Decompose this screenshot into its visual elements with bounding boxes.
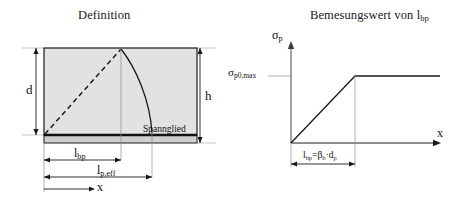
label-sigma-max-subscript: p0,max bbox=[234, 71, 256, 80]
arrow-h-bottom bbox=[197, 137, 202, 143]
label-x-axis-left: x bbox=[97, 180, 103, 195]
label-x-axis-right: x bbox=[437, 126, 443, 141]
arrow-formula-right bbox=[349, 161, 355, 166]
label-tendon-spannglied: Spannglied bbox=[143, 124, 186, 134]
formula-eq-beta: =β bbox=[312, 150, 322, 160]
figure-drawing bbox=[0, 0, 458, 203]
arrow-x-left bbox=[89, 186, 95, 191]
label-depth-d: d bbox=[26, 82, 33, 98]
label-transmission-length-formula: lbp=βb·dp bbox=[303, 150, 337, 161]
label-lpeff-subscript: p,eff bbox=[100, 169, 115, 178]
arrow-lpeff-left bbox=[44, 174, 50, 179]
label-lbp-subscript: bp bbox=[77, 152, 85, 161]
arrow-lpeff-right bbox=[146, 174, 152, 179]
formula-sub-p: p bbox=[333, 154, 336, 161]
stress-distribution-line bbox=[291, 76, 440, 143]
figure-root: Definition Bemesungswert von lbp bbox=[0, 0, 458, 203]
arrow-y-axis-right bbox=[288, 41, 294, 49]
arrow-formula-left bbox=[291, 161, 297, 166]
label-height-h: h bbox=[205, 88, 212, 104]
label-y-axis-sigma-p: σp bbox=[272, 28, 283, 43]
arrow-lbp-left bbox=[44, 157, 50, 162]
arrow-lbp-right bbox=[115, 157, 121, 162]
label-sigma-p0-max: σp0,max bbox=[228, 66, 256, 80]
arrow-d-bottom bbox=[33, 129, 38, 135]
arrow-h-top bbox=[197, 48, 202, 54]
label-effective-length-lpeff: lp,eff bbox=[97, 163, 115, 178]
concrete-body bbox=[44, 48, 197, 135]
label-sigma-p-subscript: p bbox=[278, 34, 282, 43]
arrow-d-top bbox=[33, 48, 38, 54]
label-bond-length-lbp: lbp bbox=[74, 146, 86, 161]
